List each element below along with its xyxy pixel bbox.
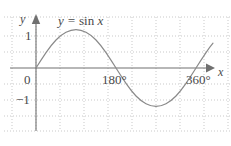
equation-equals: = xyxy=(67,13,76,28)
y-axis-label: y xyxy=(20,13,25,25)
x-tick-label-360: 360° xyxy=(186,73,211,86)
y-axis xyxy=(32,14,40,131)
origin-label: 0 xyxy=(24,73,31,86)
equation-variable-y: y xyxy=(58,13,64,28)
y-tick-label-neg1: −1 xyxy=(16,93,30,106)
y-tick-label-1: 1 xyxy=(25,29,32,42)
x-tick-label-180: 180° xyxy=(102,73,127,86)
sine-curve-figure: y x y = sin x 1 −1 0 180° 360° xyxy=(0,0,231,146)
equation-variable-x: x xyxy=(97,13,103,28)
x-axis-label: x xyxy=(218,66,223,78)
equation-function: sin xyxy=(79,13,94,28)
curve-equation-label: y = sin x xyxy=(58,14,103,27)
